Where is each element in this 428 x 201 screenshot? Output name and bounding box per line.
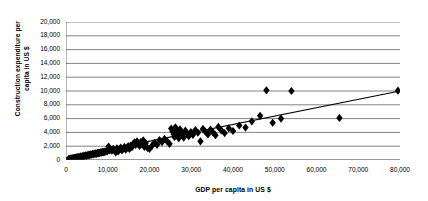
data-point [242, 123, 248, 131]
data-point [197, 137, 203, 145]
x-axis-tick-label: 50,000 [253, 167, 297, 174]
x-axis-tick-label: 10,000 [86, 167, 130, 174]
x-axis-tick-label: 0 [44, 167, 88, 174]
data-point [269, 119, 275, 127]
x-axis-title: GDP per capita in US $ [66, 186, 400, 193]
x-axis-tick-label: 70,000 [336, 167, 380, 174]
x-axis-tick-label: 80,000 [378, 167, 422, 174]
y-axis-tick-label: 10,000 [16, 88, 60, 95]
y-axis-tick-label: 8,000 [16, 101, 60, 108]
y-axis-tick-label: 14,000 [16, 60, 60, 67]
y-axis-tick-label: 18,000 [16, 32, 60, 39]
y-axis-tick-label: 12,000 [16, 74, 60, 81]
plot-area [66, 22, 400, 160]
x-axis-tick-label: 60,000 [295, 167, 339, 174]
y-axis-tick-label: 20,000 [16, 19, 60, 26]
y-axis-tick-label: 6,000 [16, 115, 60, 122]
scatter-chart: Construction expenditure per capita in U… [0, 0, 428, 201]
data-point [395, 87, 400, 95]
y-axis-tick-label: 16,000 [16, 46, 60, 53]
x-axis-tick-label: 20,000 [128, 167, 172, 174]
y-axis-title-line2: capita in US $ [23, 46, 30, 91]
y-axis-tick-label: 4,000 [16, 129, 60, 136]
y-axis-tick-label: 2,000 [16, 143, 60, 150]
x-axis-tick-label: 30,000 [169, 167, 213, 174]
x-axis-tick-label: 40,000 [211, 167, 255, 174]
data-point [336, 114, 342, 122]
plot-svg [66, 22, 400, 160]
data-point [288, 87, 294, 95]
y-axis-tick-label: 0 [16, 157, 60, 164]
data-point [263, 86, 269, 94]
